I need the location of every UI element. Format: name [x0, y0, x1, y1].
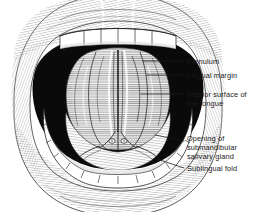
label-opening-of-submandibular-salivary-gland: Opening of submandibular salivary gland [187, 134, 237, 162]
label-inferior-surface-of-the-tongue: Inferior surface of the tongue [187, 90, 247, 108]
label-frenulum: Frenulum [187, 57, 219, 66]
label-lingual-margin: Lingual margin [187, 71, 237, 80]
label-layer: Frenulum Lingual margin Inferior surface… [0, 0, 259, 212]
anatomical-figure: Frenulum Lingual margin Inferior surface… [0, 0, 259, 212]
label-sublingual-fold: Sublingual fold [187, 164, 237, 173]
